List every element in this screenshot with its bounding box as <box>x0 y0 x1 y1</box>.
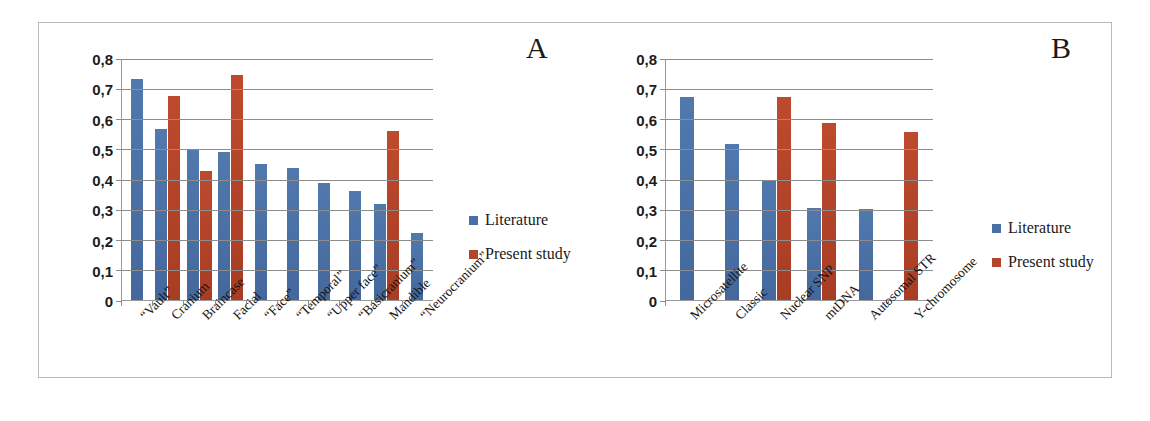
x-axis-tick <box>371 301 372 306</box>
x-axis-tick <box>339 301 340 306</box>
chart-panel-b: B 00,10,20,30,40,50,60,70,8Microsatellit… <box>599 23 1113 377</box>
x-axis-tick <box>246 301 247 306</box>
plot-area-a: 00,10,20,30,40,50,60,70,8“Vault”CraniumB… <box>121 59 433 301</box>
y-axis-tick-label: 0,2 <box>636 232 657 249</box>
legend-swatch-present-study-icon <box>469 250 478 259</box>
legend-swatch-literature-icon <box>469 216 478 225</box>
gridline <box>665 210 933 211</box>
legend-item-present-study: Present study <box>469 245 571 263</box>
chart-panel-a: A 00,10,20,30,40,50,60,70,8“Vault”Craniu… <box>39 23 599 377</box>
y-axis-tick <box>660 240 665 241</box>
legend-swatch-present-study-icon <box>992 258 1001 267</box>
legend-label-literature: Literature <box>485 211 548 229</box>
y-axis-tick <box>660 59 665 60</box>
x-axis-tick <box>754 301 755 306</box>
legend-item-literature: Literature <box>469 211 571 229</box>
y-axis-tick-label: 0,5 <box>92 141 113 158</box>
legend-a: Literature Present study <box>469 211 571 279</box>
legend-label-present-study: Present study <box>1008 253 1094 271</box>
x-axis-tick <box>277 301 278 306</box>
gridline <box>121 119 433 120</box>
x-axis-tick <box>799 301 800 306</box>
bar-literature <box>255 164 267 300</box>
y-axis-tick-label: 0 <box>649 293 657 310</box>
y-axis-tick <box>660 210 665 211</box>
y-axis-tick <box>660 270 665 271</box>
panel-a-label: A <box>526 33 548 63</box>
y-axis-tick-label: 0,7 <box>92 81 113 98</box>
legend-label-present-study: Present study <box>485 245 571 263</box>
gridline <box>121 59 433 60</box>
gridline <box>665 149 933 150</box>
y-axis-tick-label: 0,8 <box>92 51 113 68</box>
y-axis-tick <box>116 270 121 271</box>
y-axis-tick-label: 0,8 <box>636 51 657 68</box>
gridline <box>665 270 933 271</box>
bar-literature <box>155 129 167 300</box>
gridline <box>665 59 933 60</box>
gridline <box>665 180 933 181</box>
legend-item-literature: Literature <box>992 219 1094 237</box>
plot-area-b: 00,10,20,30,40,50,60,70,8MicrosatelliteC… <box>665 59 933 301</box>
gridline <box>665 89 933 90</box>
bar-literature <box>131 79 143 300</box>
x-axis-tick <box>152 301 153 306</box>
gridline <box>121 180 433 181</box>
bar-literature <box>287 168 299 300</box>
y-axis-tick <box>116 149 121 150</box>
x-axis-tick <box>665 301 666 306</box>
gridline <box>665 240 933 241</box>
gridline <box>121 149 433 150</box>
y-axis-tick-label: 0,3 <box>636 202 657 219</box>
y-axis-tick-label: 0,4 <box>636 172 657 189</box>
y-axis-tick <box>116 240 121 241</box>
figure-frame: A 00,10,20,30,40,50,60,70,8“Vault”Craniu… <box>38 22 1112 378</box>
gridline <box>665 119 933 120</box>
y-axis-tick <box>660 119 665 120</box>
y-axis-tick-label: 0,3 <box>92 202 113 219</box>
x-axis-tick <box>710 301 711 306</box>
y-axis-tick-label: 0,6 <box>636 111 657 128</box>
y-axis-tick <box>660 89 665 90</box>
x-axis-tick <box>183 301 184 306</box>
y-axis-tick <box>116 59 121 60</box>
bar-literature <box>218 152 230 300</box>
gridline <box>121 270 433 271</box>
bar-present-study <box>231 75 243 300</box>
bar-literature <box>859 209 873 300</box>
legend-b: Literature Present study <box>992 219 1094 287</box>
x-axis-tick <box>215 301 216 306</box>
y-axis-tick-label: 0,2 <box>92 232 113 249</box>
y-axis-tick-label: 0,6 <box>92 111 113 128</box>
legend-item-present-study: Present study <box>992 253 1094 271</box>
y-axis-tick <box>116 119 121 120</box>
bar-literature <box>187 150 199 300</box>
y-axis-tick <box>660 180 665 181</box>
x-axis-tick <box>121 301 122 306</box>
y-axis-tick <box>660 149 665 150</box>
y-axis-tick-label: 0,7 <box>636 81 657 98</box>
gridline <box>121 89 433 90</box>
y-axis-tick-label: 0,4 <box>92 172 113 189</box>
x-axis-tick <box>402 301 403 306</box>
panel-b-label: B <box>1051 33 1071 63</box>
y-axis-tick <box>116 180 121 181</box>
x-axis-tick <box>308 301 309 306</box>
gridline <box>121 210 433 211</box>
y-axis-tick-label: 0,5 <box>636 141 657 158</box>
y-axis-tick <box>116 89 121 90</box>
y-axis-tick-label: 0,1 <box>636 262 657 279</box>
y-axis-tick <box>116 210 121 211</box>
x-axis-tick <box>888 301 889 306</box>
legend-label-literature: Literature <box>1008 219 1071 237</box>
gridline <box>121 240 433 241</box>
legend-swatch-literature-icon <box>992 224 1001 233</box>
y-axis-tick-label: 0 <box>105 293 113 310</box>
y-axis-tick-label: 0,1 <box>92 262 113 279</box>
x-axis-tick <box>844 301 845 306</box>
